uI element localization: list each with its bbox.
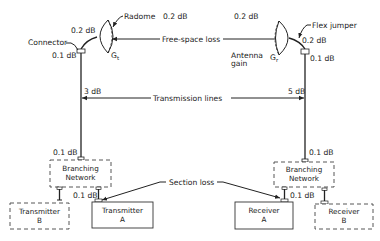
- tx-bn-top-loss: 0.1 dB: [53, 148, 78, 157]
- rx-flex-loss: 0.2 dB: [302, 36, 327, 45]
- tx-antenna: [77, 20, 113, 53]
- receiver-b-label-1: Receiver: [328, 207, 359, 216]
- receiver-a-label-1: Receiver: [248, 206, 279, 215]
- transmitter-a: Transmitter A: [92, 202, 153, 228]
- transmitter-b-label-2: B: [37, 216, 42, 225]
- tx-radome-loss: 0.2 dB: [163, 12, 188, 21]
- rx-gain-label: Gr: [270, 53, 279, 63]
- transmitter-a-label-2: A: [120, 215, 125, 224]
- transmitter-a-label-1: Transmitter: [101, 206, 143, 215]
- tx-radome-icon: [108, 20, 112, 53]
- flex-jumper-label: Flex jumper: [312, 21, 358, 30]
- section-loss-label: Section loss: [169, 178, 214, 187]
- tx-connector-loss: 0.1 dB: [52, 51, 77, 60]
- rx-bn-top-loss: 0.1 dB: [309, 148, 334, 157]
- rx-bn-bottom-loss: 0.1 dB: [290, 191, 315, 200]
- receiver-b: Receiver B: [315, 204, 373, 229]
- section-loss-arrow-right: [217, 182, 280, 198]
- rx-branching-label-1: Branching: [286, 165, 322, 174]
- section-loss-arrow-left: [102, 182, 166, 200]
- rx-connector-loss: 0.1 dB: [310, 54, 335, 63]
- rx-radome-loss: 0.2 dB: [234, 12, 259, 21]
- transmitter-b-label-1: Transmitter: [18, 207, 60, 216]
- tx-branching-label-2: Network: [65, 173, 96, 182]
- rx-branching-network: Branching Network: [274, 162, 334, 187]
- tx-gain-label: Gt: [111, 51, 120, 61]
- rx-connector-icon: [301, 49, 309, 54]
- receiver-b-label-2: B: [342, 216, 347, 225]
- tx-flex-loss: 0.2 dB: [71, 26, 96, 35]
- tx-dish-icon: [100, 20, 113, 53]
- connector-label: Connector: [28, 38, 68, 47]
- receiver-a: Receiver A: [235, 202, 293, 229]
- microwave-link-diagram: Free-space loss Radome 0.2 dB 0.2 dB 0.2…: [0, 0, 380, 241]
- connector-pointer: [66, 43, 78, 50]
- tx-flex-feed: [81, 37, 97, 49]
- free-space-loss-label: Free-space loss: [162, 35, 220, 44]
- antenna-gain-label-2: gain: [231, 59, 248, 68]
- receiver-a-label-2: A: [262, 215, 267, 224]
- rx-line-loss: 5 dB: [288, 87, 305, 96]
- rx-branching-label-2: Network: [289, 174, 320, 183]
- tx-branching-label-1: Branching: [62, 164, 98, 173]
- tx-bn-bottom-loss: 0.1 dB: [73, 191, 98, 200]
- radome-label: Radome: [124, 12, 156, 21]
- transmitter-b: Transmitter B: [10, 203, 69, 229]
- tx-branching-network: Branching Network: [50, 160, 111, 187]
- transmission-lines-label: Transmission lines: [152, 94, 222, 103]
- radome-pointer: [113, 16, 123, 27]
- tx-line-loss: 3 dB: [84, 87, 101, 96]
